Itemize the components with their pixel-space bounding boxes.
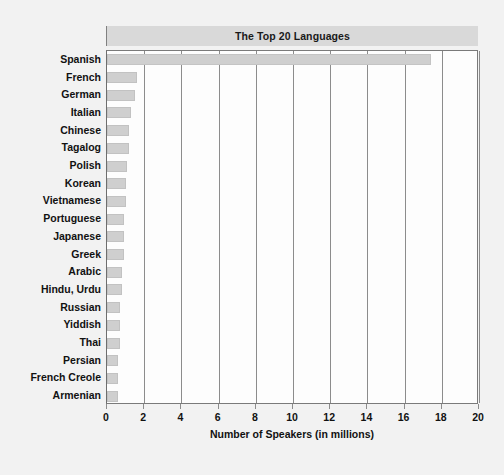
bars-layer xyxy=(107,51,477,403)
x-axis-tick-label: 18 xyxy=(435,411,447,423)
y-axis-label: Japanese xyxy=(0,230,101,242)
page-title: The Top 20 Languages xyxy=(235,30,350,42)
y-axis-label: Thai xyxy=(0,336,101,348)
x-tickmark-20 xyxy=(478,404,479,409)
x-tickmark-0 xyxy=(106,404,107,409)
x-tickmark-6 xyxy=(218,404,219,409)
bar-tagalog[interactable] xyxy=(107,143,129,154)
y-axis-label: Chinese xyxy=(0,124,101,136)
bar-spanish[interactable] xyxy=(107,54,431,65)
bar-thai[interactable] xyxy=(107,338,120,349)
y-axis-label: Polish xyxy=(0,159,101,171)
x-axis-tick-label: 8 xyxy=(252,411,258,423)
y-axis-label: Tagalog xyxy=(0,141,101,153)
bar-french[interactable] xyxy=(107,72,137,83)
bar-persian[interactable] xyxy=(107,355,118,366)
y-axis-label: Spanish xyxy=(0,53,101,65)
y-axis-label: German xyxy=(0,88,101,100)
bar-japanese[interactable] xyxy=(107,231,124,242)
x-axis-tick-label: 16 xyxy=(398,411,410,423)
x-tickmark-16 xyxy=(404,404,405,409)
bar-hindu-urdu[interactable] xyxy=(107,284,122,295)
y-axis-label: Armenian xyxy=(0,389,101,401)
bar-french-creole[interactable] xyxy=(107,373,118,384)
y-axis-label: Yiddish xyxy=(0,318,101,330)
bar-greek[interactable] xyxy=(107,249,124,260)
plot-area xyxy=(106,50,478,404)
x-tickmark-10 xyxy=(292,404,293,409)
y-axis-label: Portuguese xyxy=(0,212,101,224)
y-axis-label: Korean xyxy=(0,177,101,189)
x-axis-title: Number of Speakers (in millions) xyxy=(106,428,478,440)
y-axis-label: Arabic xyxy=(0,265,101,277)
y-axis-label: Russian xyxy=(0,301,101,313)
x-axis-tick-label: 10 xyxy=(286,411,298,423)
x-axis-tick-label: 4 xyxy=(177,411,183,423)
x-axis-tick-label: 14 xyxy=(361,411,373,423)
y-axis-label: French Creole xyxy=(0,371,101,383)
y-axis-label: Hindu, Urdu xyxy=(0,283,101,295)
x-tickmark-12 xyxy=(329,404,330,409)
x-tickmark-4 xyxy=(180,404,181,409)
bar-arabic[interactable] xyxy=(107,267,122,278)
bar-italian[interactable] xyxy=(107,107,131,118)
bar-vietnamese[interactable] xyxy=(107,196,126,207)
y-axis-label: French xyxy=(0,71,101,83)
x-axis-tick-label: 12 xyxy=(323,411,335,423)
y-axis-label: Vietnamese xyxy=(0,194,101,206)
bar-armenian[interactable] xyxy=(107,391,118,402)
bar-russian[interactable] xyxy=(107,302,120,313)
y-axis-label: Persian xyxy=(0,354,101,366)
chart-title-band: The Top 20 Languages xyxy=(106,26,478,46)
bar-chart: The Top 20 Languages SpanishFrenchGerman… xyxy=(0,0,504,475)
y-axis-label: Greek xyxy=(0,248,101,260)
y-axis-label: Italian xyxy=(0,106,101,118)
x-tickmark-2 xyxy=(143,404,144,409)
bar-korean[interactable] xyxy=(107,178,126,189)
x-axis-tick-label: 6 xyxy=(215,411,221,423)
x-tickmark-18 xyxy=(441,404,442,409)
x-axis-ticks: 02468101214161820 xyxy=(106,404,478,426)
bar-polish[interactable] xyxy=(107,161,127,172)
bar-yiddish[interactable] xyxy=(107,320,120,331)
bar-chinese[interactable] xyxy=(107,125,129,136)
gridline-20 xyxy=(479,51,480,403)
x-tickmark-8 xyxy=(255,404,256,409)
x-axis-tick-label: 20 xyxy=(472,411,484,423)
x-tickmark-14 xyxy=(366,404,367,409)
x-axis-tick-label: 2 xyxy=(140,411,146,423)
y-axis-labels: SpanishFrenchGermanItalianChineseTagalog… xyxy=(0,50,101,404)
bar-portuguese[interactable] xyxy=(107,214,124,225)
x-axis-tick-label: 0 xyxy=(103,411,109,423)
bar-german[interactable] xyxy=(107,90,135,101)
